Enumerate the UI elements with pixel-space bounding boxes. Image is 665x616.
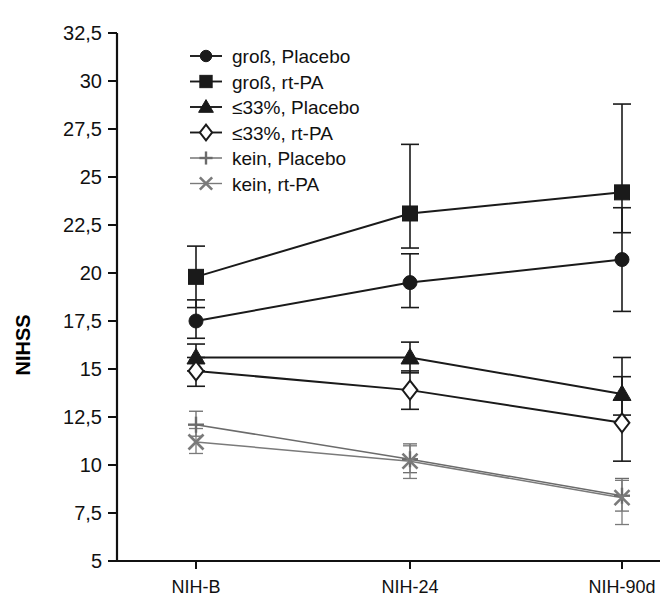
legend-item: groß, rt-PA [190, 72, 324, 93]
marker-filled-circle [615, 253, 629, 267]
marker-open-diamond [403, 381, 418, 400]
y-tick-label: 10 [80, 454, 102, 476]
y-tick-label: 5 [91, 550, 102, 572]
x-tick-label: NIH-90d [588, 577, 655, 597]
marker-filled-circle [200, 50, 211, 61]
error-bar [401, 144, 419, 248]
series-markers-group [187, 185, 631, 505]
marker-filled-circle [403, 276, 417, 290]
y-tick-label: 25 [80, 166, 102, 188]
x-tick-group [196, 561, 622, 569]
marker-filled-triangle [401, 348, 419, 363]
marker-plus [614, 488, 630, 504]
y-tick-label: 20 [80, 262, 102, 284]
legend-item: ≤33%, rt-PA [190, 123, 333, 144]
marker-plus [402, 451, 418, 467]
legend-item: kein, Placebo [190, 148, 346, 169]
marker-open-diamond [200, 125, 212, 141]
y-tick-label: 15 [80, 358, 102, 380]
y-axis-title: NIHSS [12, 314, 34, 375]
chart-figure: 57,51012,51517,52022,52527,53032,5 NIH-B… [0, 0, 665, 616]
legend-item-label: ≤33%, rt-PA [232, 123, 333, 144]
legend-item-label: groß, Placebo [232, 46, 350, 67]
marker-filled-square [403, 206, 418, 221]
legend-item: ≤33%, Placebo [190, 97, 360, 118]
marker-filled-square [615, 185, 630, 200]
y-tick-label-group: 57,51012,51517,52022,52527,53032,5 [63, 22, 102, 572]
marker-plus [199, 151, 212, 164]
error-bar [613, 104, 631, 233]
y-tick-label: 32,5 [63, 22, 102, 44]
nihss-line-chart: 57,51012,51517,52022,52527,53032,5 NIH-B… [0, 0, 665, 616]
x-tick-label-group: NIH-BNIH-24NIH-90d [172, 577, 656, 597]
y-tick-group [108, 33, 117, 561]
marker-filled-square [200, 75, 212, 87]
marker-filled-square [189, 269, 204, 284]
y-tick-label: 12,5 [63, 406, 102, 428]
series-line [196, 192, 622, 276]
marker-open-diamond [615, 413, 630, 432]
legend-item-label: kein, Placebo [232, 148, 346, 169]
series-line [196, 442, 622, 498]
marker-filled-triangle [199, 100, 214, 113]
y-tick-label: 27,5 [63, 118, 102, 140]
legend-item: groß, Placebo [190, 46, 350, 67]
y-tick-label: 7,5 [74, 502, 102, 524]
marker-plus [188, 417, 204, 433]
x-tick-label: NIH-B [172, 577, 221, 597]
y-tick-label: 17,5 [63, 310, 102, 332]
legend-item-label: ≤33%, Placebo [232, 97, 360, 118]
y-tick-label: 30 [80, 70, 102, 92]
legend-item-label: groß, rt-PA [232, 72, 324, 93]
marker-filled-circle [189, 314, 203, 328]
legend: groß, Placebogroß, rt-PA≤33%, Placebo≤33… [190, 46, 360, 195]
x-tick-label: NIH-24 [381, 577, 438, 597]
series-line [196, 260, 622, 321]
legend-item: kein, rt-PA [190, 174, 320, 195]
legend-item-label: kein, rt-PA [232, 174, 320, 195]
y-tick-label: 22,5 [63, 214, 102, 236]
